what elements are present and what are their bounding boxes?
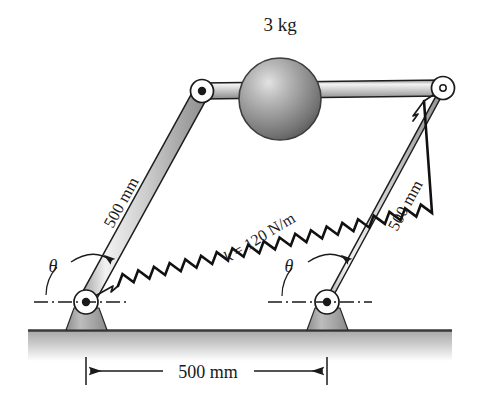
spring-hook-right-detail <box>413 101 424 121</box>
pivot-top-right <box>432 77 455 100</box>
ground <box>28 331 452 362</box>
sphere-mass <box>239 58 321 140</box>
spring-stiffness-value: = 120 N/m <box>230 209 299 260</box>
mass-label: 3 kg <box>263 14 297 35</box>
base-dimension: 500 mm <box>86 357 327 385</box>
link-top <box>202 80 443 99</box>
mechanism-diagram: θ θ 500 mm 3 kg 500 mm 500 mm k= 120 N/m <box>0 0 480 406</box>
theta-arrow-right <box>308 254 349 262</box>
pivot-top-left <box>191 80 214 103</box>
theta-label-right: θ <box>285 256 294 276</box>
theta-label-left: θ <box>49 256 58 276</box>
ground-shading <box>28 331 452 361</box>
base-dimension-label: 500 mm <box>178 362 238 382</box>
figure-root: θ θ 500 mm 3 kg 500 mm 500 mm k= 120 N/m <box>0 0 480 406</box>
